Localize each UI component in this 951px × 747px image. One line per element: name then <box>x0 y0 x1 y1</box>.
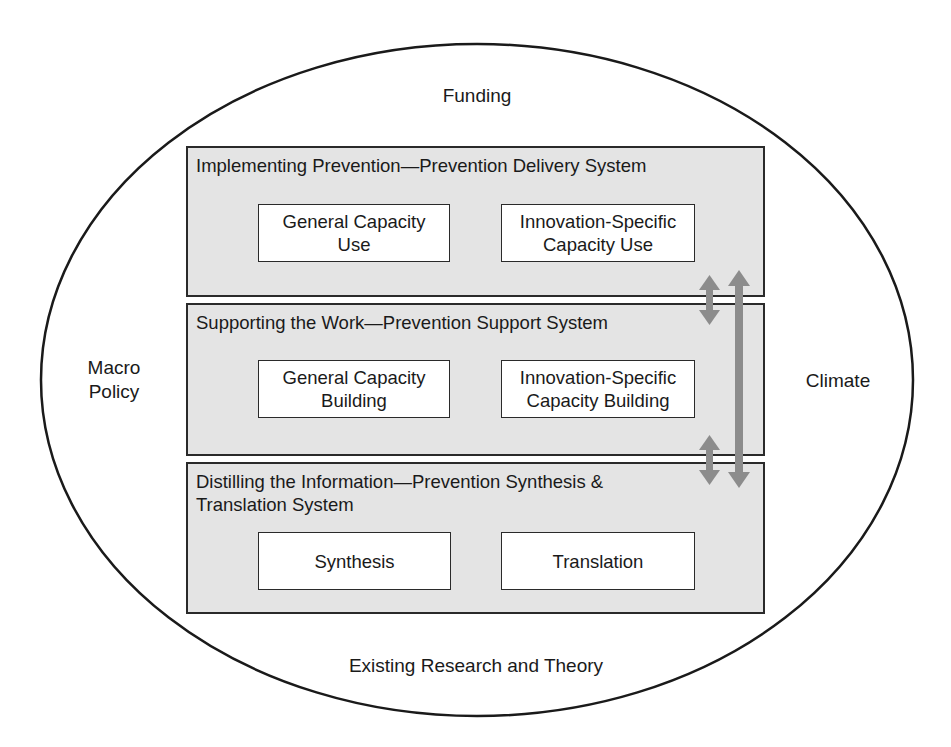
prevention-support-system: Supporting the Work—Prevention Support S… <box>186 303 765 456</box>
system-title: Implementing Prevention—Prevention Deliv… <box>196 154 756 177</box>
macro-policy-label: Macro Policy <box>64 356 164 404</box>
component-line: Building <box>283 389 426 412</box>
innovation-specific-capacity-use-box: Innovation-SpecificCapacity Use <box>501 204 695 262</box>
climate-label: Climate <box>788 369 888 393</box>
system-title: Supporting the Work—Prevention Support S… <box>196 311 756 334</box>
component-line: Translation <box>553 550 644 573</box>
component-line: Capacity Building <box>520 389 676 412</box>
component-line: Synthesis <box>314 550 394 573</box>
general-capacity-building-box: General CapacityBuilding <box>258 360 450 418</box>
translation-box: Translation <box>501 532 695 590</box>
component-line: General Capacity <box>283 366 426 389</box>
macro-policy-line1: Macro <box>64 356 164 380</box>
innovation-specific-capacity-building-box: Innovation-SpecificCapacity Building <box>501 360 695 418</box>
prevention-synthesis-translation-system: Distilling the Information—Prevention Sy… <box>186 462 765 614</box>
synthesis-box: Synthesis <box>258 532 451 590</box>
prevention-delivery-system: Implementing Prevention—Prevention Deliv… <box>186 146 765 297</box>
macro-policy-line2: Policy <box>64 380 164 404</box>
component-line: Capacity Use <box>520 233 676 256</box>
existing-research-label: Existing Research and Theory <box>296 654 656 678</box>
component-line: General Capacity <box>283 210 426 233</box>
component-line: Innovation-Specific <box>520 366 676 389</box>
system-title: Distilling the Information—Prevention Sy… <box>196 470 666 516</box>
general-capacity-use-box: General CapacityUse <box>258 204 450 262</box>
component-line: Innovation-Specific <box>520 210 676 233</box>
system-title-line1: Distilling the Information—Prevention Sy… <box>196 470 666 493</box>
funding-label: Funding <box>417 84 537 108</box>
system-title-line2: Translation System <box>196 493 666 516</box>
component-line: Use <box>283 233 426 256</box>
